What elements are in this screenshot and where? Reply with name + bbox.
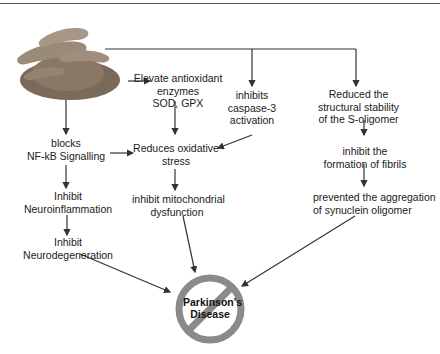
node-text: Elevate antioxidant [128,72,228,85]
node-text: enzymes [128,85,228,98]
node-text: SOD, GPX [128,97,228,110]
node-text: Neuroinflammation [18,203,118,216]
node-text: Reduced the [311,88,406,101]
node-text: Neurodegeneration [18,249,118,262]
node-text: caspase-3 [222,102,282,115]
node-text: Inhibit [18,190,118,203]
outcome-text: Disease [183,308,237,320]
node-text: inhibit mitochondrial [132,193,222,206]
node-neuroinflammation: Inhibit Neuroinflammation [18,190,118,215]
node-text: inhibits [222,89,282,102]
node-text: stress [133,155,219,168]
turmeric-image [8,18,128,103]
node-text: inhibit the [322,145,408,158]
node-text: prevented the aggregation [313,191,433,204]
node-oxidative-stress: Reduces oxidative stress [133,142,219,167]
node-synuclein-aggregation: prevented the aggregation of synuclein o… [313,191,433,216]
node-mitochondrial: inhibit mitochondrial dysfunction [132,193,222,218]
node-text: blocks [20,137,112,150]
parkinsons-disease-label: Parkinson's Disease [183,296,237,320]
outcome-text: Parkinson's [183,296,237,308]
node-neurodegeneration: Inhibit Neurodegeneration [18,236,118,261]
node-structural-stability: Reduced the structural stability of the … [311,88,406,126]
node-text: of synuclein oligomer [313,204,433,217]
node-antioxidant: Elevate antioxidant enzymes SOD, GPX [128,72,228,110]
node-caspase: inhibits caspase-3 activation [222,89,282,127]
node-nfkb: blocks NF-kB Signalling [20,137,112,162]
node-text: formation of fibrils [322,158,408,171]
node-fibrils: inhibit the formation of fibrils [322,145,408,170]
node-text: activation [222,114,282,127]
node-text: NF-kB Signalling [20,150,112,163]
node-text: Reduces oxidative [133,142,219,155]
node-text: Inhibit [18,236,118,249]
node-text: dysfunction [132,206,222,219]
node-text: of the S-oligomer [311,113,406,126]
node-text: structural stability [311,101,406,114]
